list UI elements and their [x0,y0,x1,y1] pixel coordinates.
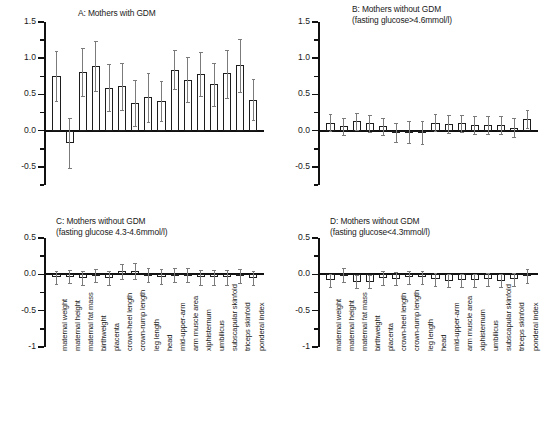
error-bar-cap [499,134,503,135]
error-bar [240,269,241,284]
panel-d-ytick-label: -0.5 [272,305,310,315]
error-bar-cap [252,271,256,272]
error-bar [135,80,136,126]
panel-c-title-line2: (fasting glucose 4.3-4.6mmol/l) [56,227,167,238]
error-bar-cap [186,57,190,58]
error-bar-cap [499,287,503,288]
error-bar-cap [355,288,359,289]
error-bar-cap [512,273,516,274]
error-bar-cap [421,144,425,145]
error-bar [422,271,423,284]
error-bar-cap [81,96,85,97]
panel-a-bars [44,22,264,185]
error-bar [214,270,215,285]
error-bar [514,273,515,286]
error-bar-cap [68,118,72,119]
error-bar-cap [473,287,477,288]
panel-b-ytick-label: 1.5 [272,16,310,26]
error-bar [488,273,489,286]
error-bar [330,114,331,131]
error-bar [330,274,331,287]
error-bar-cap [81,285,85,286]
error-bar [122,63,123,110]
error-bar [369,275,370,288]
error-bar-cap [407,284,411,285]
error-bar [448,115,449,132]
panel-c-x-axis-labels: maternal weightmaternal heightmaternal f… [44,351,264,427]
error-bar-cap [329,114,333,115]
panel-b-ytick-label: 0.5 [272,88,310,98]
panel-d-title-line2: (fasting glucose<4.3mmol/l) [330,227,430,238]
panel-d-ytick-label: 0.0 [272,268,310,278]
error-bar-cap [407,143,411,144]
error-bar-cap [173,282,177,283]
error-bar-cap [55,284,59,285]
error-bar-cap [381,285,385,286]
error-bar [396,123,397,142]
error-bar-cap [107,111,111,112]
error-bar [474,274,475,287]
error-bar-cap [68,283,72,284]
error-bar-cap [473,134,477,135]
error-bar-cap [342,135,346,136]
panel-c-ytick-label: 0.0 [0,268,36,278]
panel-b-title-line1: B: Mothers without GDM [352,4,452,15]
error-bar-cap [499,274,503,275]
error-bar-cap [486,286,490,287]
error-bar-cap [342,282,346,283]
panel-a-title-line1: A: Mothers with GDM [78,8,156,19]
error-bar-cap [368,275,372,276]
error-bar-cap [329,131,333,132]
error-bar-cap [381,135,385,136]
error-bar [82,48,83,96]
error-bar [135,263,136,279]
error-bar-cap [355,130,359,131]
panel-c-bars [44,238,264,347]
panel-a-ytick-label: -0.5 [0,161,36,171]
error-bar-cap [460,132,464,133]
error-bar [343,268,344,283]
error-bar-cap [133,263,137,264]
error-bar-cap [434,131,438,132]
panel-a-ytick-label: 1.5 [0,16,36,26]
error-bar [69,270,70,283]
error-bar-cap [238,92,242,93]
error-bar-cap [225,270,229,271]
error-bar-cap [421,271,425,272]
error-bar-cap [394,272,398,273]
error-bar-cap [407,121,411,122]
error-bar [435,114,436,131]
error-bar-cap [526,110,530,111]
error-bar [82,271,83,284]
error-bar-cap [147,122,151,123]
error-bar [369,115,370,132]
panel-b: B: Mothers without GDM(fasting glucose>4… [318,22,538,185]
error-bar [461,115,462,132]
error-bar-cap [421,121,425,122]
panel-d-title-line1: D: Mothers without GDM [330,216,430,227]
error-bar-cap [107,271,111,272]
error-bar-cap [381,118,385,119]
error-bar-cap [512,118,516,119]
error-bar [187,268,188,283]
panel-c: C: Mothers without GDM(fasting glucose 4… [44,238,264,347]
error-bar-cap [342,118,346,119]
figure-container: A: Mothers with GDM1.51.00.50.0-0.5B: Mo… [0,0,550,427]
error-bar-cap [160,121,164,122]
error-bar-cap [68,270,72,271]
error-bar-cap [199,285,203,286]
error-bar-cap [133,126,137,127]
panel-a-ytick-label: 0.0 [0,125,36,135]
error-bar-cap [120,110,124,111]
error-bar-cap [421,284,425,285]
error-bar [253,79,254,120]
error-bar-cap [460,274,464,275]
error-bar [174,268,175,283]
error-bar-cap [434,273,438,274]
error-bar [448,274,449,287]
error-bar-cap [407,271,411,272]
panel-d-title: D: Mothers without GDM(fasting glucose<4… [330,216,430,237]
error-bar-cap [225,50,229,51]
panel-d-ytick-label: 0.5 [272,232,310,242]
error-bar-cap [238,39,242,40]
